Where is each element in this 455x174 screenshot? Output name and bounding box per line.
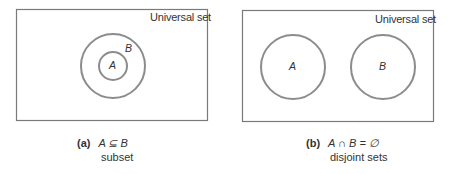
- set-a-label-a: A: [109, 59, 116, 71]
- caption-b: (b)A ∩ B = ∅ disjoint sets: [306, 137, 387, 163]
- caption-description-a: subset: [101, 151, 133, 163]
- caption-expression-b: A ∩ B = ∅: [328, 137, 379, 149]
- caption-a: (a)A ⊆ B subset: [77, 137, 133, 163]
- set-b-label-a: B: [125, 42, 132, 54]
- caption-expression-a: A ⊆ B: [98, 137, 127, 149]
- universal-set-box-b: [243, 11, 434, 122]
- caption-description-b: disjoint sets: [330, 151, 387, 163]
- universal-set-label-b: Universal set: [375, 13, 436, 25]
- set-b-label-b: B: [379, 60, 386, 72]
- caption-tag-b: (b): [306, 137, 320, 149]
- universal-set-label-a: Universal set: [150, 11, 211, 23]
- caption-tag-a: (a): [77, 137, 90, 149]
- set-a-label-b: A: [289, 60, 296, 72]
